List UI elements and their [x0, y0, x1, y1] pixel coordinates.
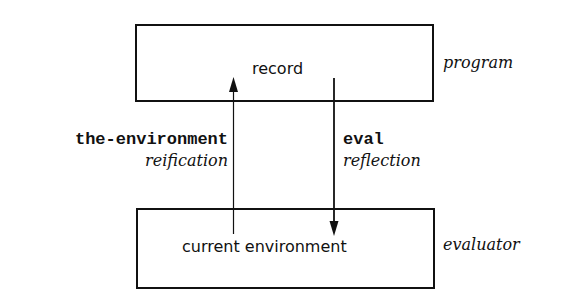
reification-label: reification [145, 153, 228, 169]
up-arrow [229, 77, 238, 234]
the-environment-label: the-environment [75, 131, 228, 148]
reflection-label: reflection [343, 153, 421, 169]
eval-label: eval [343, 131, 384, 148]
down-arrow [330, 78, 339, 236]
arrows [0, 0, 569, 301]
